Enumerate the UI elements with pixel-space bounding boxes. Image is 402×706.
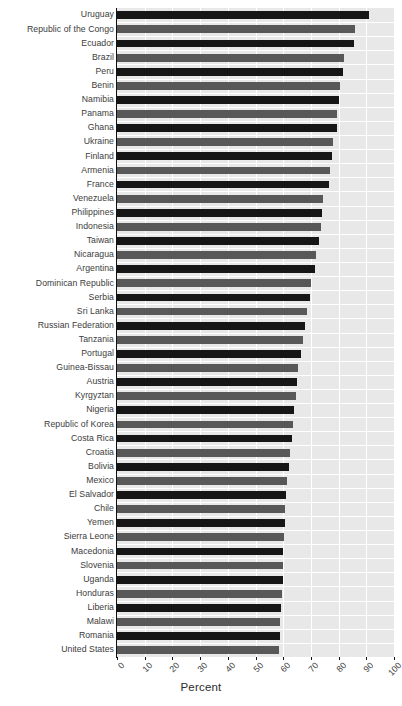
bar-honduras <box>117 590 282 598</box>
y-tick-label: Romania <box>0 631 114 640</box>
bar-row <box>117 79 394 93</box>
bar-el-salvador <box>117 491 286 499</box>
bar-row <box>117 234 394 248</box>
bar-row <box>117 304 394 318</box>
bar-row <box>117 502 394 516</box>
bar-row <box>117 558 394 572</box>
y-tick-label: Bolivia <box>0 462 114 471</box>
bar-row <box>117 474 394 488</box>
bar-austria <box>117 378 297 386</box>
bar-row <box>117 347 394 361</box>
bar-ghana <box>117 124 337 132</box>
y-tick-label: Dominican Republic <box>0 279 114 288</box>
bar-sri-lanka <box>117 308 307 316</box>
bar-russian-federation <box>117 322 305 330</box>
y-tick-label: Nigeria <box>0 405 114 414</box>
bar-portugal <box>117 350 301 358</box>
bar-philippines <box>117 209 322 217</box>
horizontal-bar-chart: UruguayRepublic of the CongoEcuadorBrazi… <box>0 0 402 706</box>
bar-row <box>117 417 394 431</box>
bar-brazil <box>117 54 344 62</box>
bar-malawi <box>117 618 280 626</box>
y-tick-label: France <box>0 180 114 189</box>
y-tick-label: Brazil <box>0 53 114 62</box>
y-tick-label: Malawi <box>0 617 114 626</box>
y-tick-label: Namibia <box>0 95 114 104</box>
bar-dominican-republic <box>117 279 311 287</box>
x-tick-mark <box>394 657 395 660</box>
bar-row <box>117 516 394 530</box>
y-tick-label: Croatia <box>0 448 114 457</box>
bar-row <box>117 488 394 502</box>
y-tick-label: Indonesia <box>0 222 114 231</box>
y-tick-label: Republic of Korea <box>0 420 114 429</box>
y-tick-label: Serbia <box>0 293 114 302</box>
bar-row <box>117 149 394 163</box>
bar-sierra-leone <box>117 533 284 541</box>
bar-row <box>117 22 394 36</box>
bar-row <box>117 586 394 600</box>
bar-row <box>117 220 394 234</box>
bar-row <box>117 206 394 220</box>
bar-row <box>117 643 394 657</box>
bar-row <box>117 163 394 177</box>
y-tick-label: Costa Rica <box>0 434 114 443</box>
bar-nigeria <box>117 406 294 414</box>
y-tick-label: Venezuela <box>0 194 114 203</box>
bar-slovenia <box>117 562 283 570</box>
bar-taiwan <box>117 237 319 245</box>
x-tick-mark <box>256 657 257 660</box>
bar-mexico <box>117 477 287 485</box>
y-tick-label: Liberia <box>0 603 114 612</box>
plot-area <box>117 8 394 657</box>
bar-yemen <box>117 519 285 527</box>
x-axis-title: Percent <box>0 681 402 693</box>
bar-row <box>117 318 394 332</box>
x-tick-mark <box>311 657 312 660</box>
y-tick-label: Honduras <box>0 589 114 598</box>
y-tick-label: Uganda <box>0 575 114 584</box>
y-tick-label: Peru <box>0 67 114 76</box>
bar-row <box>117 290 394 304</box>
bar-republic-of-the-congo <box>117 25 355 33</box>
bar-row <box>117 276 394 290</box>
bar-row <box>117 121 394 135</box>
bar-row <box>117 445 394 459</box>
bar-panama <box>117 110 337 118</box>
bar-row <box>117 431 394 445</box>
y-tick-label: Republic of the Congo <box>0 25 114 34</box>
bar-bolivia <box>117 463 289 471</box>
bar-row <box>117 389 394 403</box>
bar-united-states <box>117 646 279 654</box>
y-tick-label: Nicaragua <box>0 250 114 259</box>
bar-republic-of-korea <box>117 421 293 429</box>
x-tick-mark <box>283 657 284 660</box>
y-tick-label: Yemen <box>0 518 114 527</box>
y-tick-label: Chile <box>0 504 114 513</box>
x-tick-mark <box>228 657 229 660</box>
bar-row <box>117 544 394 558</box>
bar-venezuela <box>117 195 323 203</box>
y-tick-label: Argentina <box>0 264 114 273</box>
bar-nicaragua <box>117 251 316 259</box>
y-tick-label: United States <box>0 645 114 654</box>
bar-row <box>117 107 394 121</box>
bar-row <box>117 615 394 629</box>
bar-indonesia <box>117 223 321 231</box>
bar-kyrgyztan <box>117 392 296 400</box>
bar-row <box>117 50 394 64</box>
y-tick-label: Russian Federation <box>0 321 114 330</box>
bar-row <box>117 64 394 78</box>
y-tick-label: Panama <box>0 109 114 118</box>
bar-namibia <box>117 96 339 104</box>
y-tick-label: Slovenia <box>0 561 114 570</box>
bar-row <box>117 36 394 50</box>
y-tick-label: El Salvador <box>0 490 114 499</box>
bar-liberia <box>117 604 281 612</box>
bar-armenia <box>117 167 330 175</box>
y-tick-label: Mexico <box>0 476 114 485</box>
y-tick-label: Philippines <box>0 208 114 217</box>
bar-row <box>117 93 394 107</box>
y-tick-label: Portugal <box>0 349 114 358</box>
bar-row <box>117 333 394 347</box>
